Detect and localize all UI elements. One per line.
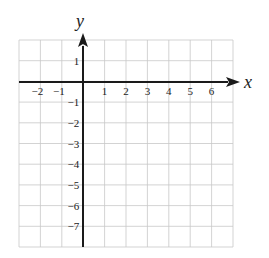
x-tick-label: −1 <box>53 85 65 97</box>
grid-lines <box>19 40 233 247</box>
x-tick-label: 3 <box>145 85 151 97</box>
y-tick-label: 1 <box>74 55 80 67</box>
y-tick-label: −1 <box>67 96 79 108</box>
y-axis-label: y <box>74 11 84 31</box>
x-tick-label: 2 <box>123 85 129 97</box>
x-tick-label: 5 <box>187 85 193 97</box>
y-tick-label: −2 <box>67 117 79 129</box>
x-tick-labels: −2−1123456 <box>32 85 215 97</box>
y-tick-label: −5 <box>67 179 79 191</box>
x-tick-label: −2 <box>32 85 44 97</box>
y-tick-label: −3 <box>67 138 79 150</box>
y-tick-label: −7 <box>67 220 79 232</box>
x-tick-label: 6 <box>209 85 215 97</box>
coordinate-grid: x y −2−1123456 1−1−2−3−4−5−6−7 <box>0 0 269 258</box>
x-tick-label: 4 <box>166 85 172 97</box>
x-tick-label: 1 <box>102 85 108 97</box>
y-tick-label: −4 <box>67 158 79 170</box>
x-axis-label: x <box>243 72 252 92</box>
y-tick-label: −6 <box>67 200 79 212</box>
axes <box>19 33 240 247</box>
